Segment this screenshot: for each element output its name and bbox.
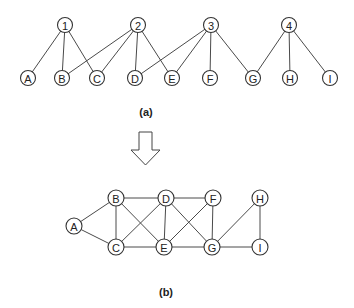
a-edge-4-I xyxy=(289,25,330,78)
node-label: A xyxy=(70,221,78,233)
down-arrow-icon xyxy=(131,132,160,165)
node-label: A xyxy=(24,73,32,85)
a-node-A: A xyxy=(21,71,36,86)
node-label: B xyxy=(58,73,65,85)
node-label: C xyxy=(93,73,101,85)
b-edge-G-H xyxy=(212,198,260,247)
a-node-D: D xyxy=(128,71,143,86)
a-node-2: 2 xyxy=(131,18,146,33)
b-node-D: D xyxy=(158,190,174,206)
node-label: I xyxy=(258,242,261,254)
node-label: 1 xyxy=(62,20,68,32)
a-node-B: B xyxy=(55,71,70,86)
a-node-I: I xyxy=(323,71,338,86)
caption-a: (a) xyxy=(139,106,153,118)
node-label: E xyxy=(168,73,175,85)
a-node-4: 4 xyxy=(282,18,297,33)
a-node-3: 3 xyxy=(204,18,219,33)
b-node-G: G xyxy=(204,239,220,255)
a-node-H: H xyxy=(283,71,298,86)
a-edge-2-B xyxy=(62,25,138,78)
node-label: F xyxy=(210,193,217,205)
caption-b: (b) xyxy=(159,286,173,298)
a-node-1: 1 xyxy=(58,18,73,33)
a-edge-3-E xyxy=(172,25,211,78)
node-label: H xyxy=(256,193,264,205)
b-node-E: E xyxy=(156,239,172,255)
diagram-b-nodes: ABCDEFGHI xyxy=(66,190,268,255)
diagram-a-edges xyxy=(28,25,330,78)
a-edge-2-E xyxy=(138,25,172,78)
b-node-F: F xyxy=(205,190,221,206)
b-node-B: B xyxy=(108,190,124,206)
node-label: C xyxy=(112,242,120,254)
a-node-E: E xyxy=(165,71,180,86)
a-edge-4-G xyxy=(253,25,289,78)
a-node-G: G xyxy=(246,71,261,86)
a-node-C: C xyxy=(90,71,105,86)
node-label: G xyxy=(208,242,217,254)
a-edge-2-C xyxy=(97,25,138,78)
b-node-H: H xyxy=(252,190,268,206)
b-node-C: C xyxy=(108,239,124,255)
node-label: B xyxy=(112,193,119,205)
a-edge-1-A xyxy=(28,25,65,78)
node-label: 3 xyxy=(208,20,214,32)
node-label: 2 xyxy=(135,20,141,32)
a-edge-3-G xyxy=(211,25,253,78)
node-label: 4 xyxy=(286,20,292,32)
node-label: E xyxy=(160,242,167,254)
a-edge-1-C xyxy=(65,25,97,78)
node-label: D xyxy=(131,73,139,85)
node-label: D xyxy=(162,193,170,205)
node-label: H xyxy=(286,73,294,85)
b-node-A: A xyxy=(66,218,82,234)
b-node-I: I xyxy=(252,239,268,255)
node-label: G xyxy=(249,73,258,85)
node-label: I xyxy=(328,73,331,85)
node-label: F xyxy=(207,73,214,85)
a-node-F: F xyxy=(203,71,218,86)
hypergraph-to-graph-figure: 1234ABCDEFGHI (a) ABCDEFGHI (b) xyxy=(0,0,354,308)
